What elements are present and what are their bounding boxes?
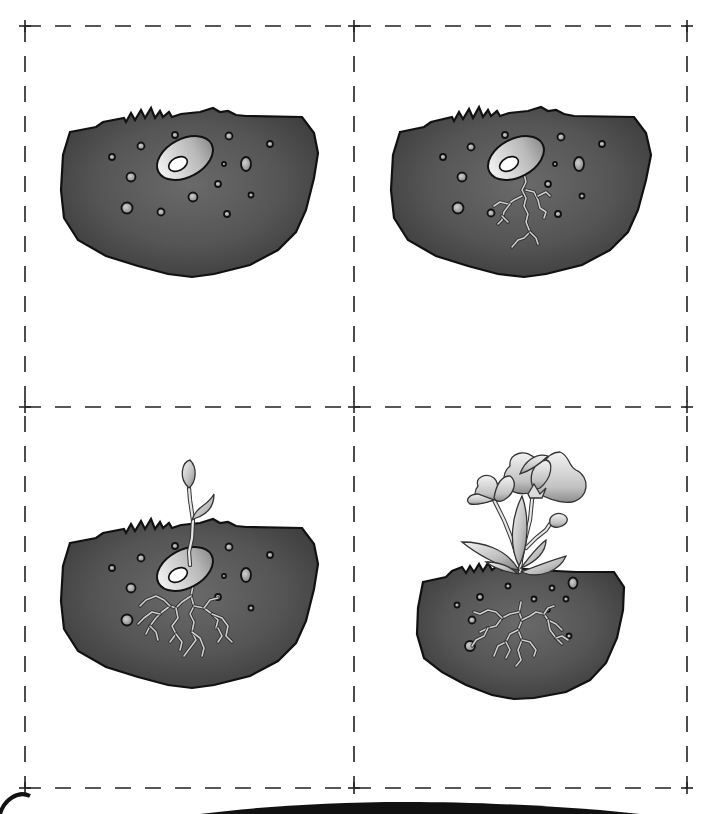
plant-lifecycle-cards [0, 0, 710, 814]
pebble [222, 574, 226, 578]
card-stage-4-flowering-plant [417, 452, 624, 699]
pebble [555, 211, 561, 217]
pebble [138, 143, 145, 150]
pebble [109, 565, 115, 571]
pebble [553, 162, 557, 166]
pebble [440, 154, 446, 160]
pebble [224, 211, 230, 217]
card-stage-1-seed-in-soil [61, 108, 318, 277]
pebble [550, 586, 555, 591]
soil-mound [61, 108, 318, 277]
pebble [127, 173, 136, 182]
pebble [189, 193, 198, 202]
pebble [455, 603, 460, 608]
pebble [458, 173, 467, 182]
pebble [545, 181, 551, 187]
pebble [574, 157, 584, 171]
pebble [241, 568, 251, 582]
pebble [109, 154, 115, 160]
pebble [267, 141, 273, 147]
small-flower-petal [494, 476, 514, 501]
pebble [477, 594, 483, 600]
sprout-leaf [182, 460, 195, 488]
pebble [564, 597, 569, 602]
pebble [469, 617, 476, 624]
pebble [122, 203, 133, 214]
soil-mound [417, 563, 624, 699]
pebble [226, 544, 233, 551]
pebble [506, 584, 511, 589]
pebble [122, 615, 133, 626]
flower-bud [550, 513, 568, 527]
pebble [127, 584, 136, 593]
card-stage-3-seedling [61, 460, 318, 688]
pebble [569, 578, 578, 589]
card-stage-2-seed-with-roots [391, 107, 651, 277]
pebble [222, 162, 226, 166]
pebble [215, 181, 221, 187]
pebble [267, 552, 273, 558]
pebble [532, 597, 537, 602]
flower-leaf [512, 496, 527, 566]
pebble [488, 210, 495, 217]
pebble [502, 132, 508, 138]
pebble [468, 144, 475, 151]
pebble [249, 606, 254, 611]
bottom-decoration [0, 794, 640, 814]
soil-mound [391, 107, 651, 277]
pebble [172, 543, 178, 549]
pebble [172, 132, 178, 138]
decor-arc-left [0, 794, 30, 814]
cards [61, 107, 651, 699]
pebble [453, 203, 464, 214]
pebble [241, 157, 251, 171]
decor-swoosh [200, 802, 640, 814]
pebble [138, 555, 145, 562]
pebble [580, 194, 585, 199]
sprout-leaf [192, 494, 214, 520]
pebble [226, 133, 233, 140]
pebble [558, 134, 565, 141]
pebble [158, 209, 165, 216]
pebble [249, 193, 254, 198]
pebble [599, 141, 605, 147]
